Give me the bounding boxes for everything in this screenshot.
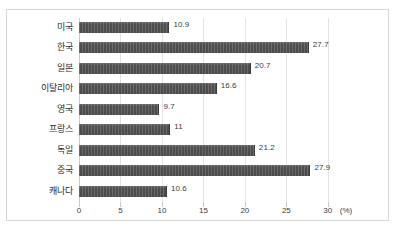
category-label-slot: 이탈리아 bbox=[7, 79, 73, 99]
bar-row: 27.7 bbox=[79, 38, 361, 58]
bar-row: 16.6 bbox=[79, 79, 361, 99]
category-label-slot: 프랑스 bbox=[7, 120, 73, 140]
category-label-slot: 미국 bbox=[7, 18, 73, 38]
bar[interactable] bbox=[79, 42, 309, 53]
category-label-slot: 중국 bbox=[7, 161, 73, 181]
category-label: 이탈리아 bbox=[3, 81, 73, 94]
category-label: 캐나다 bbox=[3, 184, 73, 197]
value-axis-tick-label: 0 bbox=[77, 206, 81, 215]
bar-row: 27.9 bbox=[79, 161, 361, 181]
bar-value-label: 27.7 bbox=[313, 40, 329, 49]
value-axis-labels: 051015202530 bbox=[7, 206, 390, 222]
bar-value-label: 27.9 bbox=[314, 163, 330, 172]
bar[interactable] bbox=[79, 165, 310, 176]
category-label: 중국 bbox=[3, 163, 73, 176]
bar-row: 20.7 bbox=[79, 59, 361, 79]
bar-row: 9.7 bbox=[79, 100, 361, 120]
category-label-slot: 일본 bbox=[7, 59, 73, 79]
value-axis-tick-label: 25 bbox=[282, 206, 291, 215]
bar[interactable] bbox=[79, 186, 167, 197]
bar-value-label: 10.6 bbox=[171, 184, 187, 193]
bar-value-label: 9.7 bbox=[163, 102, 174, 111]
category-label: 미국 bbox=[3, 20, 73, 33]
axis-unit-label: (%) bbox=[340, 206, 352, 215]
bar-series: 10.927.720.716.69.71121.227.910.6 bbox=[79, 18, 361, 202]
category-label-slot: 독일 bbox=[7, 141, 73, 161]
bar-row: 21.2 bbox=[79, 141, 361, 161]
bar-value-label: 21.2 bbox=[259, 143, 275, 152]
bar[interactable] bbox=[79, 83, 217, 94]
category-label: 한국 bbox=[3, 40, 73, 53]
bar-row: 10.9 bbox=[79, 18, 361, 38]
plot-area: 10.927.720.716.69.71121.227.910.6 bbox=[79, 18, 361, 202]
value-axis-tick-label: 30 bbox=[323, 206, 332, 215]
category-label: 영국 bbox=[3, 102, 73, 115]
category-axis: 미국한국일본이탈리아영국프랑스독일중국캐나다 bbox=[7, 18, 73, 202]
category-label: 독일 bbox=[3, 143, 73, 156]
bar[interactable] bbox=[79, 145, 255, 156]
value-axis-tick-label: 10 bbox=[157, 206, 166, 215]
chart-frame: 미국한국일본이탈리아영국프랑스독일중국캐나다 10.927.720.716.69… bbox=[6, 9, 389, 221]
bar[interactable] bbox=[79, 104, 159, 115]
bar-row: 10.6 bbox=[79, 182, 361, 202]
value-axis-tick-label: 20 bbox=[240, 206, 249, 215]
bar-row: 11 bbox=[79, 120, 361, 140]
category-label-slot: 영국 bbox=[7, 100, 73, 120]
bar[interactable] bbox=[79, 22, 169, 33]
bar-value-label: 20.7 bbox=[255, 61, 271, 70]
bar-value-label: 16.6 bbox=[221, 81, 237, 90]
category-label-slot: 캐나다 bbox=[7, 182, 73, 202]
category-label: 일본 bbox=[3, 61, 73, 74]
bar-value-label: 11 bbox=[174, 122, 183, 131]
bar[interactable] bbox=[79, 124, 170, 135]
bar[interactable] bbox=[79, 63, 251, 74]
bar-value-label: 10.9 bbox=[173, 20, 189, 29]
value-axis-tick-label: 5 bbox=[118, 206, 122, 215]
value-axis-tick-label: 15 bbox=[199, 206, 208, 215]
category-label-slot: 한국 bbox=[7, 38, 73, 58]
category-label: 프랑스 bbox=[3, 122, 73, 135]
